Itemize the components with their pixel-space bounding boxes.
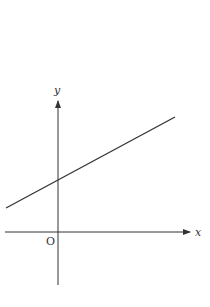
origin-label: O [46,235,55,248]
y-axis-label: y [53,84,61,97]
x-axis-label: x [195,226,202,239]
coordinate-diagram: x y O [0,0,210,307]
plotted-line [6,117,175,208]
